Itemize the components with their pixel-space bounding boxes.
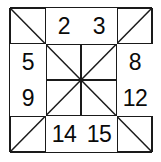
grid-diagram: 2 3 5 8 9 12 14 15	[0, 0, 161, 162]
grid-lines-svg	[0, 0, 161, 162]
